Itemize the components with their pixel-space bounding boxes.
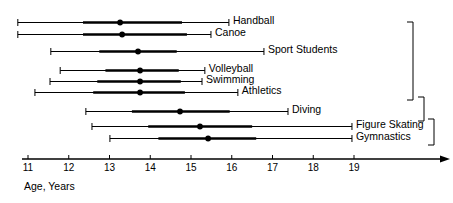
median-dot: [135, 49, 141, 55]
series-rows-layer: [18, 19, 352, 142]
x-axis-tick-label: 18: [308, 162, 319, 173]
series-label: Gymnastics: [356, 131, 411, 142]
series-row: [50, 78, 202, 85]
median-dot: [137, 68, 143, 74]
x-axis-tick-label: 17: [267, 162, 278, 173]
x-axis-tick-label: 13: [104, 162, 115, 173]
series-row: [51, 48, 264, 55]
series-label: Figure Skating: [356, 119, 424, 130]
median-dot: [197, 124, 203, 130]
series-row: [60, 67, 205, 74]
median-dot: [205, 136, 211, 142]
series-label: Sport Students: [268, 44, 337, 55]
x-axis-tick-label: 12: [63, 162, 74, 173]
bracket-inner: [428, 119, 434, 145]
series-label: Canoe: [215, 27, 246, 38]
series-label: Handball: [233, 15, 274, 26]
x-axis-tick-label: 14: [145, 162, 156, 173]
x-axis-tick-label: 11: [23, 162, 33, 173]
median-dot: [119, 32, 125, 38]
series-row: [18, 31, 211, 38]
median-dot: [137, 90, 143, 96]
median-dot: [117, 20, 123, 26]
bracket-outer: [407, 22, 413, 100]
series-label: Diving: [292, 104, 321, 115]
series-row: [92, 123, 352, 130]
x-axis-tick-label: 16: [226, 162, 237, 173]
series-row: [86, 108, 288, 115]
x-axis-tick-label: 19: [348, 162, 359, 173]
series-row: [110, 135, 352, 142]
series-row: [35, 89, 238, 96]
x-axis-title: Age, Years: [24, 180, 75, 192]
dot-and-whisker-chart: HandballCanoeSport StudentsVolleyballSwi…: [0, 0, 453, 203]
median-dot: [177, 109, 183, 115]
right-arrow-icon: [440, 155, 450, 162]
x-axis-tick-label: 15: [185, 162, 196, 173]
series-label: Athletics: [242, 85, 282, 96]
series-row: [18, 19, 229, 26]
median-dot: [137, 79, 143, 85]
